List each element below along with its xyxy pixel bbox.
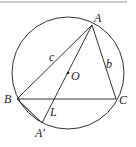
segment-BA-prime-inner (19, 101, 41, 122)
side-AB (17, 25, 92, 99)
label-A: A (93, 11, 102, 25)
center-point-O (67, 72, 70, 75)
label-side-c: c (49, 50, 55, 64)
geometry-diagram: A B C L A' O c b (0, 0, 136, 147)
side-AC (92, 25, 116, 99)
label-A-prime: A' (34, 126, 45, 140)
label-O: O (71, 69, 80, 83)
label-L: L (49, 105, 57, 119)
label-side-b: b (106, 57, 112, 71)
label-C: C (119, 93, 128, 107)
label-B: B (4, 92, 12, 106)
